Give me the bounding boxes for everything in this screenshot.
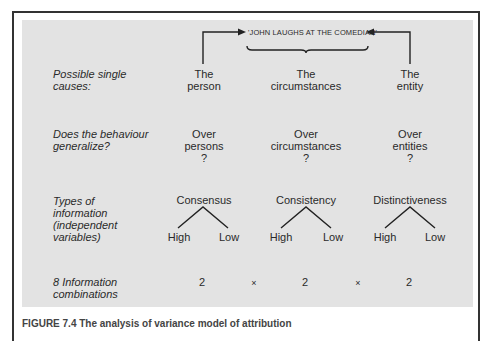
figure-caption: FIGURE 7.4 The analysis of variance mode… — [22, 318, 292, 330]
arrow-person-to-statement — [203, 32, 240, 64]
info-consistency-low: Low — [323, 231, 343, 243]
times-operator-2: × — [355, 277, 360, 289]
row-label-causes: Possible single causes: — [53, 68, 126, 92]
info-consensus-high: High — [168, 231, 191, 243]
row-label-combinations: 8 Information combinations — [53, 276, 118, 300]
info-distinctiveness-high: High — [374, 231, 397, 243]
row-label-information: Types of information (independent variab… — [53, 195, 117, 243]
times-operator-1: × — [251, 277, 256, 289]
cause-circumstances: The circumstances — [271, 68, 341, 92]
info-consistency: Consistency — [276, 194, 336, 206]
row-label-generalize: Does the behaviour generalize? — [53, 128, 148, 152]
info-consensus-low: Low — [219, 231, 239, 243]
tree-consistency — [281, 207, 331, 228]
combination-value-2: 2 — [302, 276, 308, 288]
brace-circumstances — [247, 46, 368, 53]
cause-entity: The entity — [397, 68, 423, 92]
generalize-circumstances: Over circumstances ? — [271, 128, 341, 164]
generalize-persons: Over persons ? — [184, 128, 223, 164]
generalize-entities: Over entities ? — [393, 128, 428, 164]
tree-consensus — [178, 207, 228, 228]
info-consistency-high: High — [270, 231, 293, 243]
statement-text: 'JOHN LAUGHS AT THE COMEDIAN' — [248, 27, 377, 39]
combination-value-1: 2 — [199, 276, 205, 288]
combination-value-3: 2 — [406, 276, 412, 288]
info-distinctiveness-low: Low — [425, 231, 445, 243]
cause-person: The person — [187, 68, 221, 92]
arrowhead-right-icon — [238, 29, 246, 36]
info-distinctiveness: Distinctiveness — [373, 194, 446, 206]
info-consensus: Consensus — [176, 194, 231, 206]
tree-distinctiveness — [385, 207, 435, 228]
arrow-entity-to-statement — [372, 32, 410, 64]
